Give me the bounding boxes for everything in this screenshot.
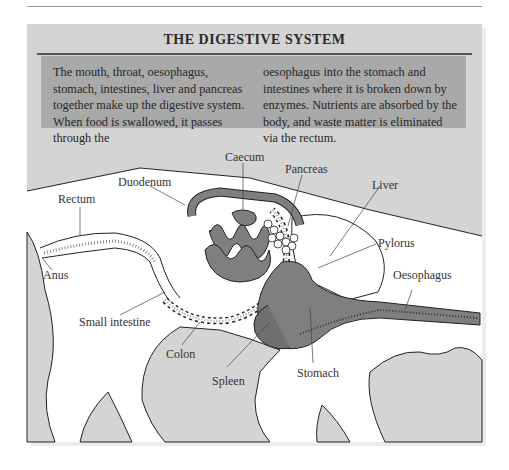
label-spleen: Spleen xyxy=(212,374,245,389)
digestive-system-illustration xyxy=(0,0,509,470)
label-anus: Anus xyxy=(43,268,68,283)
label-liver: Liver xyxy=(372,178,398,193)
label-rectum: Rectum xyxy=(58,192,95,207)
label-colon: Colon xyxy=(166,347,195,362)
label-stomach: Stomach xyxy=(297,366,339,381)
label-oesophagus: Oesophagus xyxy=(393,268,452,283)
label-pancreas: Pancreas xyxy=(285,162,328,177)
label-caecum: Caecum xyxy=(225,150,264,165)
label-small-intestine: Small intestine xyxy=(79,315,151,330)
label-duodenum: Duodenum xyxy=(118,175,171,190)
animal-body-outline xyxy=(27,168,482,442)
label-pylorus: Pylorus xyxy=(378,236,415,251)
